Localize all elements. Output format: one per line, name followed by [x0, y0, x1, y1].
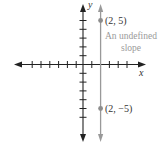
undefined-slope-note: An undefined slope	[104, 30, 158, 54]
coordinate-graph	[0, 0, 160, 149]
y-axis-label: y	[88, 0, 92, 10]
y-axis-down-arrow-icon	[80, 134, 86, 142]
point-label-bottom: (2, −5)	[105, 104, 132, 114]
x-axis-label: x	[139, 68, 143, 78]
note-line-2: slope	[104, 42, 158, 54]
x-axis-left-arrow-icon	[14, 62, 22, 68]
point-2-neg5	[98, 106, 103, 111]
point-2-5	[98, 18, 103, 23]
line-down-arrow-icon	[98, 134, 103, 142]
point-label-top: (2, 5)	[105, 16, 127, 26]
line-up-arrow-icon	[98, 4, 103, 12]
y-axis-up-arrow-icon	[80, 4, 86, 12]
note-line-1: An undefined	[104, 30, 158, 42]
